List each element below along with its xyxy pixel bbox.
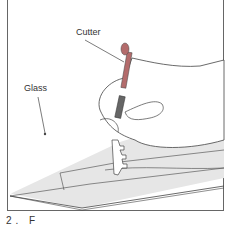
glass-cutting-illustration bbox=[0, 0, 227, 228]
cutter-leader bbox=[85, 40, 124, 62]
glass-label: Glass bbox=[24, 83, 47, 93]
figure-caption: 2. F bbox=[6, 215, 39, 226]
cutter-knob bbox=[121, 43, 129, 55]
glass-leader bbox=[38, 97, 45, 133]
cutter-label: Cutter bbox=[76, 27, 101, 37]
